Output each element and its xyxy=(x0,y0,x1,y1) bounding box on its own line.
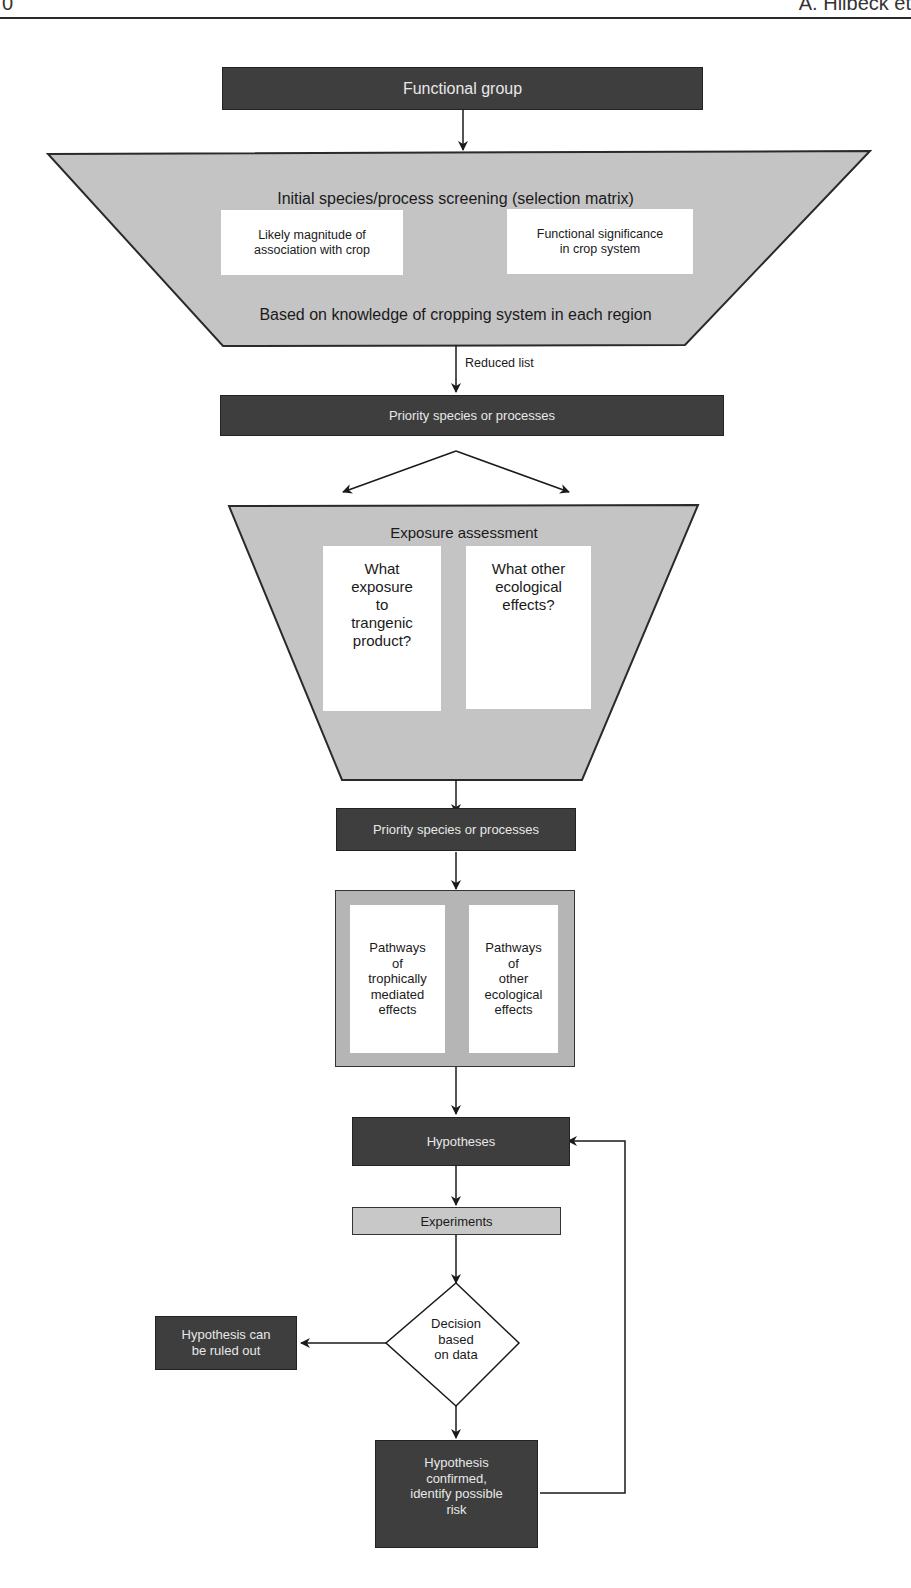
screening-footer: Based on knowledge of cropping system in… xyxy=(0,306,911,324)
magnitude-label: Likely magnitude of association with cro… xyxy=(254,228,370,258)
functional-group-label: Functional group xyxy=(403,80,522,98)
significance-label: Functional significance in crop system xyxy=(537,227,663,257)
decision-label: Decision based on data xyxy=(406,1316,506,1363)
confirmed-box: Hypothesis confirmed, identify possible … xyxy=(375,1440,538,1548)
ruled-out-label: Hypothesis can be ruled out xyxy=(182,1327,271,1358)
other-pathways-label: Pathways of other ecological effects xyxy=(485,940,543,1018)
experiments-label: Experiments xyxy=(420,1214,492,1229)
exposure-title: Exposure assessment xyxy=(229,524,699,541)
hypotheses-box: Hypotheses xyxy=(352,1117,570,1166)
confirmed-label: Hypothesis confirmed, identify possible … xyxy=(410,1455,503,1517)
other-effects-label: What other ecological effects? xyxy=(492,560,565,614)
arrow-split-left xyxy=(343,451,456,492)
feedback-loop xyxy=(540,1141,625,1493)
exposure-funnel xyxy=(229,505,698,780)
other-effects-box: What other ecological effects? xyxy=(466,546,591,709)
priority-label-1: Priority species or processes xyxy=(389,408,555,423)
screening-title: Initial species/process screening (selec… xyxy=(0,190,911,208)
hypotheses-label: Hypotheses xyxy=(427,1134,496,1149)
ruled-out-box: Hypothesis can be ruled out xyxy=(155,1316,297,1370)
exposure-question-label: What exposure to trangenic product? xyxy=(351,560,413,650)
priority-box-1: Priority species or processes xyxy=(220,395,724,436)
priority-label-2: Priority species or processes xyxy=(373,822,539,837)
other-pathways-box: Pathways of other ecological effects xyxy=(469,905,558,1053)
exposure-question-box: What exposure to trangenic product? xyxy=(323,546,441,711)
experiments-box: Experiments xyxy=(352,1207,561,1235)
significance-box: Functional significance in crop system xyxy=(507,209,693,274)
trophic-pathways-box: Pathways of trophically mediated effects xyxy=(350,905,445,1053)
trophic-pathways-label: Pathways of trophically mediated effects xyxy=(368,940,427,1018)
reduced-list-label: Reduced list xyxy=(465,356,534,370)
functional-group-box: Functional group xyxy=(222,67,703,110)
arrow-split-right xyxy=(456,451,569,492)
priority-box-2: Priority species or processes xyxy=(336,808,576,851)
magnitude-box: Likely magnitude of association with cro… xyxy=(221,210,403,275)
